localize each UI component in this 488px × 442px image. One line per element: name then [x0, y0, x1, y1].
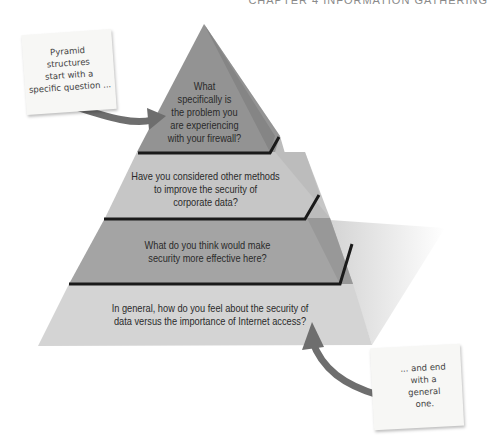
tier-1-text: What specifically is the problem you are…: [158, 80, 250, 145]
sticky-note-bottom: ... and end with a general one.: [370, 344, 464, 431]
sticky-note-top: Pyramid structures start with a specific…: [21, 29, 116, 115]
tier-4-text: In general, how do you feel about the se…: [100, 302, 320, 328]
arrow-to-base: [312, 340, 378, 395]
tier-3-text: What do you think would make security mo…: [139, 239, 275, 265]
tier-2-text: Have you considered other methods to imp…: [129, 170, 283, 209]
